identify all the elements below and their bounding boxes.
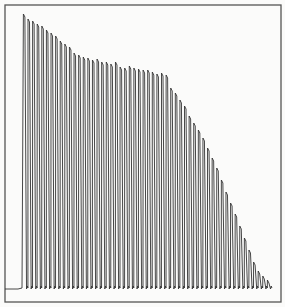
fatigue-trace-line	[5, 14, 272, 289]
fatigue-curve-chart	[0, 0, 285, 307]
